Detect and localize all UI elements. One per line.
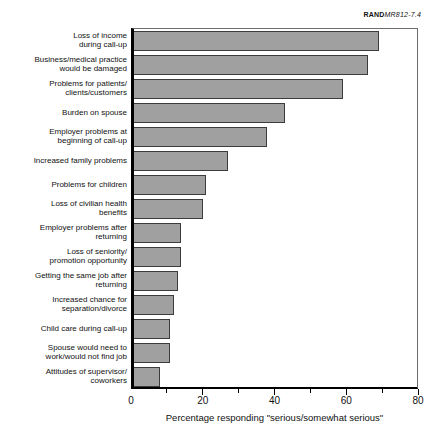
category-label-13: Spouse would need towork/would not find … <box>0 340 127 364</box>
category-label-9: Loss of seniority/promotion opportunity <box>0 244 127 268</box>
bar-11 <box>134 295 174 315</box>
category-label-2: Problems for patients/clients/customers <box>0 76 127 100</box>
bar-12 <box>134 319 170 339</box>
bar-8 <box>134 223 181 243</box>
bar-6 <box>134 175 206 195</box>
bar-1 <box>134 55 368 75</box>
category-label-1: Business/medical practicewould be damage… <box>0 52 127 76</box>
category-label-0: Loss of incomeduring call-up <box>0 28 127 52</box>
bar-13 <box>134 343 170 363</box>
bar-5 <box>134 151 228 171</box>
category-label-3: Burden on spouse <box>0 100 127 124</box>
category-label-12: Child care during call-up <box>0 316 127 340</box>
category-labels: Loss of incomeduring call-upBusiness/med… <box>0 0 127 400</box>
bar-14 <box>134 367 160 387</box>
bar-2 <box>134 79 343 99</box>
bar-3 <box>134 103 285 123</box>
x-minor-tick-50 <box>310 389 311 393</box>
figure: RANDMR812-7.4 Loss of incomeduring call-… <box>0 0 441 442</box>
x-tick-label-80: 80 <box>403 395 433 406</box>
x-minor-tick-30 <box>238 389 239 393</box>
bar-4 <box>134 127 267 147</box>
bar-7 <box>134 199 203 219</box>
category-label-4: Employer problems atbeginning of call-up <box>0 124 127 148</box>
plot-area <box>131 28 418 389</box>
category-label-10: Getting the same job afterreturning <box>0 268 127 292</box>
bar-10 <box>134 271 178 291</box>
x-tick-labels: 020406080 <box>131 395 421 408</box>
bar-0 <box>134 31 379 51</box>
x-tick-label-40: 40 <box>260 395 290 406</box>
category-label-14: Attitudes of supervisor/coworkers <box>0 364 127 388</box>
category-label-5: Increased family problems <box>0 148 127 172</box>
category-label-6: Problems for children <box>0 172 127 196</box>
x-minor-tick-70 <box>382 389 383 393</box>
x-tick-label-60: 60 <box>331 395 361 406</box>
x-axis-title: Percentage responding "serious/somewhat … <box>118 412 431 423</box>
category-label-7: Loss of civilian healthbenefits <box>0 196 127 220</box>
x-minor-tick-10 <box>166 389 167 393</box>
x-tick-label-20: 20 <box>188 395 218 406</box>
x-tick-label-0: 0 <box>116 395 146 406</box>
report-id: RANDMR812-7.4 <box>364 11 421 18</box>
category-label-11: Increased chance forseparation/divorce <box>0 292 127 316</box>
document-number: MR812-7.4 <box>385 11 421 18</box>
bar-9 <box>134 247 181 267</box>
rand-logo-text: RAND <box>364 11 385 18</box>
category-label-8: Employer problems afterreturning <box>0 220 127 244</box>
